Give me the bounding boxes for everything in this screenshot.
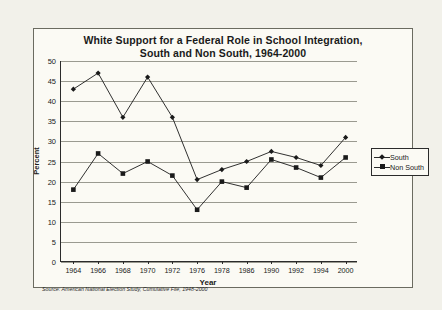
- data-point: [120, 115, 125, 120]
- y-axis-tick-label: 45: [48, 77, 56, 86]
- data-point: [343, 155, 348, 160]
- x-axis-tick-label: 1992: [288, 266, 304, 275]
- chart-legend: South Non South: [371, 148, 429, 176]
- gridline: [61, 262, 357, 263]
- y-axis-tick-label: 35: [48, 117, 56, 126]
- data-point: [96, 70, 101, 75]
- data-point: [244, 159, 249, 164]
- y-axis-title: Percent: [32, 147, 41, 175]
- series-line-non-south: [73, 153, 345, 209]
- x-axis-tick-label: 1990: [263, 266, 279, 275]
- data-point: [71, 87, 76, 92]
- x-axis-tick-label: 1994: [313, 266, 329, 275]
- x-axis-tick-label: 1972: [164, 266, 180, 275]
- legend-item-non-south[interactable]: Non South: [374, 162, 424, 172]
- data-point: [269, 157, 274, 162]
- x-axis-tick-label: 1970: [140, 266, 156, 275]
- x-axis-tick-label: 1968: [115, 266, 131, 275]
- y-axis-tick-label: 0: [52, 258, 56, 267]
- legend-marker-square-icon: [374, 162, 390, 172]
- y-axis-tick-label: 40: [48, 97, 56, 106]
- data-point: [145, 159, 150, 164]
- y-axis-tick-label: 50: [48, 57, 56, 66]
- y-axis-tick-label: 30: [48, 137, 56, 146]
- data-point: [294, 155, 299, 160]
- data-point: [195, 207, 200, 212]
- legend-label-south: South: [390, 153, 409, 162]
- x-axis-tick-label: 1966: [90, 266, 106, 275]
- series-lines: [61, 61, 358, 262]
- data-point: [319, 175, 324, 180]
- chart-title-line-2: South and Non South, 1964-2000: [33, 47, 413, 60]
- data-point: [96, 151, 101, 156]
- x-axis-tick-label: 1978: [214, 266, 230, 275]
- chart-title-line-1: White Support for a Federal Role in Scho…: [33, 34, 413, 47]
- y-axis-tick-label: 20: [48, 177, 56, 186]
- data-point: [170, 173, 175, 178]
- series-line-south: [73, 73, 345, 180]
- data-point: [269, 149, 274, 154]
- data-point: [219, 167, 224, 172]
- data-point: [294, 165, 299, 170]
- plot-area: 05101520253035404550 1964196619681970197…: [60, 61, 357, 262]
- y-axis-tick-label: 10: [48, 217, 56, 226]
- data-point: [145, 74, 150, 79]
- legend-marker-diamond-icon: [374, 152, 390, 162]
- x-axis-tick-label: 1964: [65, 266, 81, 275]
- data-point: [220, 179, 225, 184]
- x-axis-tick-label: 1986: [239, 266, 255, 275]
- source-note: Source: American National Election Study…: [42, 286, 207, 292]
- y-axis-tick-label: 15: [48, 197, 56, 206]
- x-axis-tick-label: 2000: [338, 266, 354, 275]
- y-axis-tick-label: 5: [52, 237, 56, 246]
- data-point: [244, 185, 249, 190]
- data-point: [195, 177, 200, 182]
- x-axis-tick-label: 1976: [189, 266, 205, 275]
- data-point: [170, 115, 175, 120]
- chart-page: White Support for a Federal Role in Scho…: [0, 0, 442, 310]
- data-point: [121, 171, 126, 176]
- legend-item-south[interactable]: South: [374, 152, 424, 162]
- y-axis-tick-label: 25: [48, 157, 56, 166]
- chart-title: White Support for a Federal Role in Scho…: [33, 34, 413, 60]
- legend-label-non-south: Non South: [390, 163, 424, 172]
- data-point: [71, 187, 76, 192]
